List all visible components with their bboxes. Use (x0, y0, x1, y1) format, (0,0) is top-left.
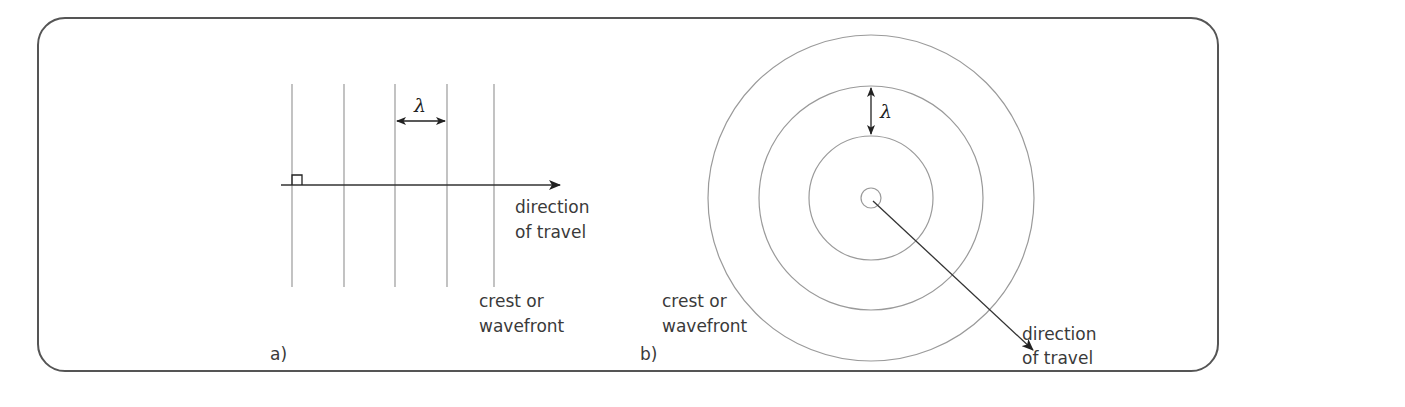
panel-a: λ direction of travel crest or wavefront… (270, 84, 590, 364)
panel-label: b) (640, 344, 657, 364)
direction-label: direction (1022, 324, 1097, 344)
wavefront-ring (809, 136, 933, 260)
wavefront-label: wavefront (479, 316, 565, 336)
direction-label: of travel (515, 222, 586, 242)
right-angle-icon (292, 175, 302, 185)
wavefront-label: wavefront (662, 316, 748, 336)
direction-label: direction (515, 197, 590, 217)
circular-wavefronts (708, 35, 1034, 361)
panel-label: a) (270, 344, 287, 364)
wavefront-ring (708, 35, 1034, 361)
panel-b: λ crest or wavefront b) direction of tra… (640, 35, 1097, 368)
wavelength-symbol: λ (413, 94, 426, 116)
direction-label: of travel (1022, 348, 1093, 368)
wavelength-symbol: λ (879, 100, 892, 122)
direction-arrow (873, 201, 1033, 350)
wave-diagram: λ direction of travel crest or wavefront… (0, 0, 1405, 407)
wavefront-label: crest or (479, 291, 544, 311)
wavefront-label: crest or (662, 291, 727, 311)
